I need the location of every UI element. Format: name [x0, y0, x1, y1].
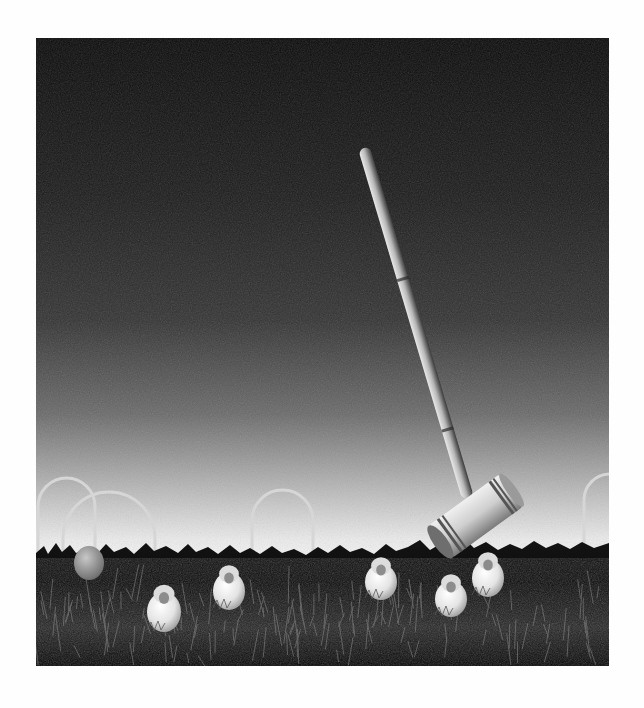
gray-ball	[74, 546, 104, 580]
photo-scene	[36, 38, 609, 666]
chick-face	[483, 559, 493, 570]
chick-face	[376, 564, 386, 575]
croquet-photograph	[36, 38, 609, 666]
croquet-balls	[74, 546, 104, 580]
chick-face	[446, 581, 456, 592]
chick-face	[224, 572, 234, 583]
chick-face	[159, 592, 169, 604]
page-background	[0, 0, 644, 708]
sky-grain	[36, 38, 609, 558]
grass-grain	[36, 558, 609, 666]
